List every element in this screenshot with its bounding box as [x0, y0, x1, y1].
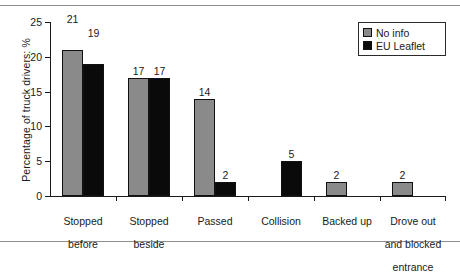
- x-category-drove-out: Drove out and blocked entrance: [378, 204, 448, 275]
- x-tick-1: [116, 197, 117, 201]
- y-tick-label-20: 20: [30, 51, 42, 63]
- x-category-stopped-before-line1: Stopped: [51, 216, 115, 228]
- y-tick-label-0: 0: [36, 190, 42, 202]
- x-category-stopped-beside-line2: beside: [117, 239, 181, 251]
- x-category-stopped-before-line2: before: [51, 239, 115, 251]
- x-category-passed: Passed: [183, 204, 247, 239]
- x-category-drove-out-line2: and blocked: [378, 239, 448, 251]
- y-tick-label-15: 15: [30, 86, 42, 98]
- bar-no-info-backed-up: [326, 182, 347, 196]
- value-no-info-backed-up: 2: [320, 169, 353, 181]
- bar-eu-leaflet-stopped-beside: [149, 78, 170, 196]
- value-no-info-stopped-before: 21: [56, 13, 89, 25]
- x-category-collision-line1: Collision: [248, 216, 314, 228]
- x-category-stopped-beside: Stopped beside: [117, 204, 181, 262]
- y-tick-0: [45, 196, 50, 197]
- value-eu-leaflet-collision: 5: [275, 148, 308, 160]
- y-tick-label-10: 10: [30, 120, 42, 132]
- y-tick-label-5: 5: [36, 155, 42, 167]
- legend-item-eu-leaflet: EU Leaflet: [363, 39, 441, 52]
- x-tick-2: [182, 197, 183, 201]
- legend-label-no-info: No info: [376, 27, 409, 39]
- legend-label-eu-leaflet: EU Leaflet: [376, 40, 425, 52]
- legend-swatch-no-info-icon: [363, 28, 372, 37]
- bar-eu-leaflet-collision: [281, 161, 302, 196]
- top-divider-rule: [0, 5, 460, 6]
- legend-swatch-eu-leaflet-icon: [363, 41, 372, 50]
- x-tick-4: [314, 197, 315, 201]
- x-category-passed-line1: Passed: [183, 216, 247, 228]
- x-tick-3: [248, 197, 249, 201]
- value-no-info-passed: 14: [188, 86, 221, 98]
- x-tick-6: [445, 197, 446, 201]
- y-tick-label-25: 25: [30, 16, 42, 28]
- bar-eu-leaflet-passed: [215, 182, 236, 196]
- value-eu-leaflet-passed: 2: [209, 169, 242, 181]
- x-category-backed-up-line1: Backed up: [313, 216, 381, 228]
- legend: No info EU Leaflet: [358, 22, 446, 56]
- bar-no-info-stopped-beside: [128, 78, 149, 196]
- value-no-info-drove-out: 2: [386, 169, 419, 181]
- x-category-drove-out-line1: Drove out: [378, 216, 448, 228]
- x-category-collision: Collision: [248, 204, 314, 239]
- bar-no-info-stopped-before: [62, 50, 83, 196]
- x-category-backed-up: Backed up: [313, 204, 381, 239]
- value-eu-leaflet-stopped-before: 19: [77, 27, 110, 39]
- bar-no-info-drove-out: [392, 182, 413, 196]
- value-eu-leaflet-stopped-beside: 17: [143, 65, 176, 77]
- x-category-stopped-before: Stopped before: [51, 204, 115, 262]
- legend-item-no-info: No info: [363, 26, 441, 39]
- bar-no-info-passed: [194, 99, 215, 196]
- x-category-drove-out-line3: entrance: [378, 262, 448, 274]
- x-tick-5: [380, 197, 381, 201]
- y-axis-title: Percentage of truck drivers: %: [20, 20, 32, 200]
- x-category-stopped-beside-line1: Stopped: [117, 216, 181, 228]
- bar-eu-leaflet-stopped-before: [83, 64, 104, 196]
